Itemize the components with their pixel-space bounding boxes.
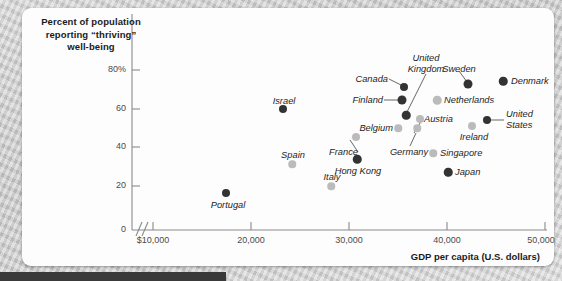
y-axis-title: Percent of population reporting “thrivin…: [30, 16, 152, 54]
data-point-germany[interactable]: [413, 124, 421, 132]
data-point-japan[interactable]: [444, 168, 453, 177]
chart-card: Percent of population reporting “thrivin…: [22, 8, 554, 266]
label-hong-kong: Hong Kong: [335, 166, 382, 177]
y-tick-label-40: 40: [84, 141, 126, 151]
label-us-line-2: States: [506, 120, 532, 130]
data-point-finland[interactable]: [398, 96, 407, 105]
data-point-portugal[interactable]: [222, 189, 230, 197]
data-point-spain[interactable]: [288, 160, 296, 168]
data-point-italy[interactable]: [327, 182, 335, 190]
data-point-ireland[interactable]: [468, 122, 476, 130]
x-tick-label-30000: 30,000: [319, 235, 379, 245]
y-tick-label-0: 0: [84, 224, 126, 234]
axis-break-slash-2: [142, 222, 148, 236]
data-point-sweden[interactable]: [464, 80, 473, 89]
label-israel: Israel: [273, 96, 296, 107]
data-point-belgium[interactable]: [394, 124, 402, 132]
label-japan: Japan: [455, 167, 480, 178]
label-ireland: Ireland: [460, 132, 488, 143]
data-point-denmark[interactable]: [499, 77, 508, 86]
label-france: France: [329, 147, 358, 158]
label-netherlands: Netherlands: [444, 95, 494, 106]
data-point-singapore[interactable]: [429, 149, 437, 157]
y-tick-label-20: 20: [84, 180, 126, 190]
label-uk-line-1: United: [413, 53, 440, 63]
y-tick-label-60: 60: [84, 103, 126, 113]
x-tick-label-20000: 20,000: [221, 235, 281, 245]
leader-germany: [410, 133, 416, 146]
data-point-austria[interactable]: [416, 115, 424, 123]
label-us: United States: [506, 109, 533, 130]
y-tick-label-80: 80%: [84, 64, 126, 74]
x-tick-label-50000: 50,000: [511, 235, 562, 245]
label-austria: Austria: [424, 114, 453, 125]
y-axis-title-line-2: reporting “thriving”: [46, 29, 137, 40]
y-axis-title-line-3: well-being: [67, 41, 114, 52]
data-point-uk[interactable]: [402, 111, 411, 120]
x-axis-title: GDP per capita (U.S. dollars): [411, 251, 540, 262]
label-sweden: Sweden: [442, 64, 476, 75]
scatter-plot: Percent of population reporting “thrivin…: [22, 8, 554, 266]
label-finland: Finland: [353, 95, 384, 106]
label-uk: United Kingdom: [408, 53, 445, 74]
data-point-us[interactable]: [483, 116, 491, 124]
x-tick-label-40000: 40,000: [417, 235, 477, 245]
bottom-edge-bar: [0, 272, 226, 281]
label-germany: Germany: [390, 147, 428, 158]
label-portugal: Portugal: [211, 200, 246, 211]
leader-uk: [406, 74, 426, 114]
label-us-line-1: United: [506, 109, 533, 119]
label-canada: Canada: [355, 74, 388, 85]
label-singapore: Singapore: [440, 148, 482, 159]
data-point-france[interactable]: [352, 133, 360, 141]
data-point-netherlands[interactable]: [433, 96, 442, 105]
label-spain: Spain: [281, 150, 305, 161]
y-axis-title-line-1: Percent of population: [41, 16, 141, 27]
label-uk-line-2: Kingdom: [408, 64, 445, 74]
x-tick-label-10000: $10,000: [123, 235, 183, 245]
data-point-canada[interactable]: [400, 83, 408, 91]
label-denmark: Denmark: [511, 76, 549, 87]
axis-break-slash-1: [136, 222, 142, 236]
label-belgium: Belgium: [359, 123, 393, 134]
